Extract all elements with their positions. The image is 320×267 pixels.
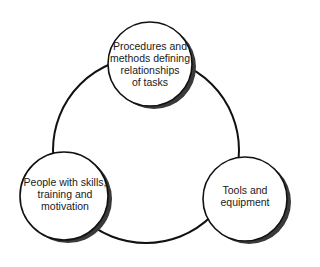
node-tools-label: Tools and equipment	[205, 176, 285, 216]
node-people-label: People with skills, training and motivat…	[20, 166, 110, 222]
node-procedures-label: Procedures and methods defining relation…	[110, 30, 190, 98]
